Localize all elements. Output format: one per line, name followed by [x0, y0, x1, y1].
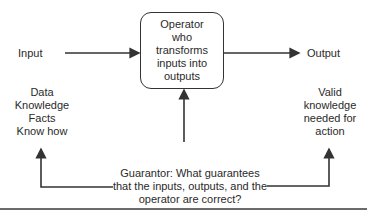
bottom-divider — [0, 208, 367, 210]
operator-line: who — [172, 31, 192, 44]
input-label: Input — [18, 47, 42, 60]
output-label: Output — [307, 47, 340, 60]
operator-line: transforms — [156, 44, 208, 57]
operator-guarantor-diagram: Input Output Operator who transforms inp… — [0, 0, 367, 214]
operator-line: Operator — [160, 18, 203, 31]
output-type: Valid — [298, 86, 362, 99]
operator-line: outputs — [164, 70, 200, 83]
guarantor-line: that the inputs, outputs, and the — [110, 180, 270, 193]
input-types-list: Data Knowledge Facts Know how — [10, 86, 74, 138]
guarantor-text: Guarantor: What guarantees that the inpu… — [110, 167, 270, 206]
guarantor-line: Guarantor: What guarantees — [110, 167, 270, 180]
input-type: Knowledge — [10, 99, 74, 112]
input-type: Data — [10, 86, 74, 99]
operator-line: inputs into — [157, 57, 207, 70]
output-type: knowledge — [298, 99, 362, 112]
guarantor-to-outputs-arrow — [267, 149, 329, 186]
input-type: Know how — [10, 125, 74, 138]
output-types-list: Valid knowledge needed for action — [298, 86, 362, 138]
guarantor-line: operator are correct? — [110, 193, 270, 206]
input-type: Facts — [10, 112, 74, 125]
guarantor-to-inputs-arrow — [41, 149, 113, 187]
output-type: action — [298, 125, 362, 138]
operator-box: Operator who transforms inputs into outp… — [140, 12, 224, 89]
output-type: needed for — [298, 112, 362, 125]
